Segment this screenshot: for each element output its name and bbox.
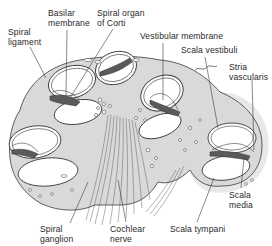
label-stria-vascularis: Stria vascularis <box>229 62 268 82</box>
label-scala-vestibuli: Scala vestibuli <box>181 45 237 55</box>
label-scala-media: Scala media <box>229 190 253 210</box>
label-spiral-ligament: Spiral ligament <box>8 27 41 47</box>
label-spiral-organ-of-corti: Spiral organ of Corti <box>97 8 145 28</box>
label-basilar-membrane: Basilar membrane <box>48 8 90 28</box>
vessel <box>195 66 217 70</box>
label-cochlear-nerve: Cochlear nerve <box>110 224 145 244</box>
label-scala-tympani: Scala tympani <box>170 224 225 234</box>
label-vestibular-membrane: Vestibular membrane <box>140 31 223 41</box>
cochlea-diagram: Basilar membrane Spiral organ of Corti S… <box>0 0 272 246</box>
label-spiral-ganglion: Spiral ganglion <box>40 224 73 244</box>
